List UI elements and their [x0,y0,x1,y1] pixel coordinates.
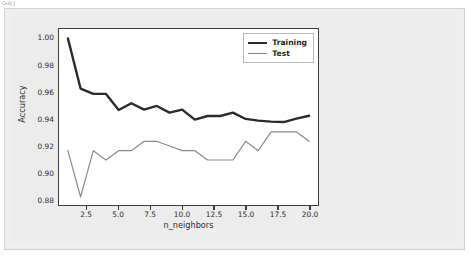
x-tick-label: 20.0 [294,210,326,219]
legend-swatch-test-icon [248,53,267,54]
y-tick-label: 0.96 [28,87,54,96]
matplotlib-figure: Accuracy 0.880.900.920.940.960.981.00 Tr… [10,14,457,243]
legend-label-training: Training [272,38,307,47]
legend: Training Test [243,33,314,63]
legend-item-training: Training [248,37,307,48]
x-tick-label: 2.5 [70,210,102,219]
legend-item-test: Test [248,48,307,59]
legend-label-test: Test [272,49,289,58]
y-axis-ticks: 0.880.900.920.940.960.981.00 [24,28,54,206]
x-tick-label: 10.0 [166,210,198,219]
x-tick-label: 17.5 [262,210,294,219]
x-tick-mark [277,206,278,210]
y-tick-label: 0.88 [28,195,54,204]
x-tick-mark [245,206,246,210]
x-axis-label: n_neighbors [58,220,319,230]
x-tick-mark [213,206,214,210]
screenshot-root: Out[ ] Accuracy 0.880.900.920.940.960.98… [0,0,469,256]
legend-swatch-training-icon [248,42,267,44]
x-tick-mark [118,206,119,210]
plot-area: Training Test [58,28,319,206]
x-tick-label: 7.5 [134,210,166,219]
y-tick-label: 0.98 [28,60,54,69]
x-tick-mark [86,206,87,210]
line-test [68,132,309,197]
x-tick-label: 15.0 [230,210,262,219]
output-frame: Accuracy 0.880.900.920.940.960.981.00 Tr… [4,8,465,250]
x-tick-label: 12.5 [198,210,230,219]
x-tick-mark [182,206,183,210]
y-tick-label: 0.94 [28,114,54,123]
x-tick-label: 5.0 [102,210,134,219]
notebook-output-stub: Out[ ] [2,0,24,7]
y-tick-label: 1.00 [28,33,54,42]
x-tick-mark [309,206,310,210]
y-tick-label: 0.90 [28,168,54,177]
x-tick-mark [150,206,151,210]
y-tick-label: 0.92 [28,141,54,150]
